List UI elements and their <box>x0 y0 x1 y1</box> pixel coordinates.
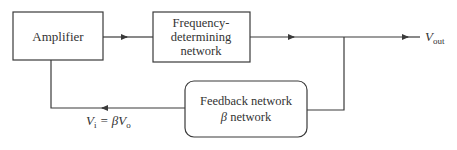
feedback-label-line1: Feedback network <box>200 94 293 108</box>
feedback-network-block: Feedback network β network <box>185 81 307 137</box>
vi-equation-label: Vi = βVo <box>86 113 131 130</box>
amplifier-block: Amplifier <box>13 12 103 60</box>
frequency-label-line3: network <box>181 44 223 58</box>
frequency-network-block: Frequency- determining network <box>153 12 250 62</box>
feedback-return-line <box>51 60 103 108</box>
frequency-label-line2: determining <box>171 30 232 44</box>
feedback-tap-line <box>307 37 344 110</box>
frequency-label-line1: Frequency- <box>173 16 230 30</box>
vout-label: Vout <box>425 29 445 46</box>
oscillator-block-diagram: Amplifier Frequency- determining network… <box>0 0 457 150</box>
feedback-label-line2: β network <box>220 110 272 124</box>
amplifier-label: Amplifier <box>32 29 84 44</box>
